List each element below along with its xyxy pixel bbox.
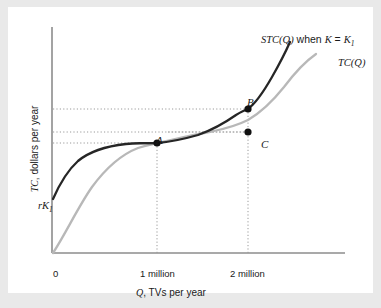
rk1-subscript: 1	[49, 205, 53, 214]
point-label-b: B	[247, 97, 254, 108]
cost-curves-plot	[8, 7, 373, 293]
stc-label-k: K	[325, 34, 332, 45]
stc-curve	[53, 42, 290, 199]
y-axis-title-text: , dollars per year	[29, 106, 40, 180]
stc-label-k-subscript: 1	[351, 39, 355, 48]
y-axis-title: TC, dollars per year	[30, 79, 40, 219]
stc-label-main: STC(Q)	[261, 34, 294, 45]
stc-label-when: when	[297, 33, 322, 45]
data-point-c[interactable]	[244, 128, 251, 135]
tc-curve-label: TC(Q)	[338, 58, 365, 69]
xtick-label-1-million: 1 million	[140, 269, 175, 279]
point-label-a: A	[156, 135, 163, 146]
stc-curve-label: STC(Q) when K = K1	[261, 34, 354, 48]
stc-label-k-base: K	[344, 34, 351, 45]
figure-container: STC(Q) when K = K1 TC(Q) rK1 A B C 0 1 m…	[0, 0, 381, 308]
x-axis-title-text: , TVs per year	[143, 287, 206, 298]
rk1-intercept-label: rK1	[38, 200, 53, 214]
xtick-label-0: 0	[53, 269, 58, 279]
xtick-label-2-million: 2 million	[230, 269, 265, 279]
y-axis-title-symbol: TC	[29, 180, 40, 192]
point-label-c: C	[261, 139, 268, 150]
chart-panel: STC(Q) when K = K1 TC(Q) rK1 A B C 0 1 m…	[8, 7, 373, 293]
x-axis-title: Q, TVs per year	[136, 288, 206, 298]
